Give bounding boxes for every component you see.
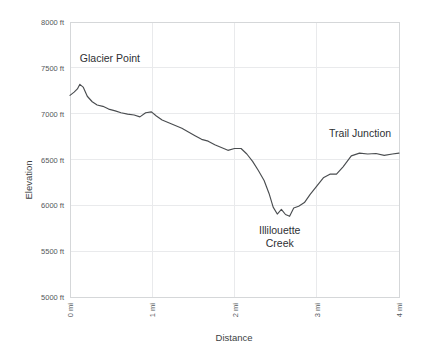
elevation-profile-figure: 8000 ft 7500 ft 7000 ft 6500 ft 6000 ft … (0, 0, 424, 358)
y-tick-label-7500: 7500 ft (41, 64, 65, 73)
annotation-glacier-point: Glacier Point (80, 52, 140, 64)
y-axis-title: Elevation (23, 160, 34, 199)
annotation-illilouette-creek-label-line2: Creek (266, 237, 295, 249)
y-tick-label-6500: 6500 ft (41, 156, 65, 165)
annotation-glacier-point-label: Glacier Point (80, 52, 140, 64)
y-tick-label-6000: 6000 ft (41, 201, 65, 210)
y-axis-tick-labels: 8000 ft 7500 ft 7000 ft 6500 ft 6000 ft … (41, 18, 65, 302)
x-tick-label-1mi: 1 mi (148, 303, 157, 318)
y-tick-label-7000: 7000 ft (41, 110, 65, 119)
x-tick-label-3mi: 3 mi (313, 303, 322, 318)
annotation-trail-junction: Trail Junction (329, 127, 391, 139)
x-axis-title: Distance (216, 332, 253, 343)
x-tick-label-0mi: 0 mi (66, 303, 75, 318)
elevation-chart: 8000 ft 7500 ft 7000 ft 6500 ft 6000 ft … (0, 0, 424, 358)
x-tick-label-2mi: 2 mi (231, 303, 240, 318)
annotation-illilouette-creek-label-line1: Illilouette (259, 224, 301, 236)
x-axis-tick-labels: 0 mi 1 mi 2 mi 3 mi 4 mi (66, 303, 404, 318)
y-tick-label-5500: 5500 ft (41, 247, 65, 256)
y-tick-label-8000: 8000 ft (41, 18, 65, 27)
y-tick-label-5000: 5000 ft (41, 293, 65, 302)
x-tick-label-4mi: 4 mi (395, 303, 404, 318)
annotation-trail-junction-label: Trail Junction (329, 127, 391, 139)
